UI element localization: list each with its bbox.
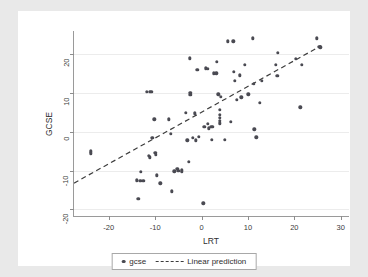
legend-item-linear-prediction: Linear prediction bbox=[155, 257, 246, 266]
x-tick-label: -10 bbox=[150, 223, 161, 232]
y-tick-mark bbox=[70, 171, 74, 172]
x-tick-mark bbox=[341, 216, 342, 220]
x-tick-mark bbox=[109, 216, 110, 220]
x-tick-mark bbox=[294, 216, 295, 220]
legend-item-gcse: gcse bbox=[122, 257, 147, 266]
x-tick-label: 10 bbox=[244, 223, 252, 232]
plot-inner bbox=[74, 31, 349, 216]
y-tick-label: -10 bbox=[62, 175, 71, 186]
x-tick-mark bbox=[202, 216, 203, 220]
chart-screenshot: GCSE -20-1001020 -20-100102030 LRT gcse … bbox=[0, 0, 368, 277]
plot-area: -20-1001020 -20-100102030 bbox=[73, 31, 349, 217]
x-axis-title: LRT bbox=[73, 236, 349, 246]
chart-legend: gcse Linear prediction bbox=[112, 253, 257, 270]
x-tick-label: 0 bbox=[199, 223, 203, 232]
y-tick-label: -20 bbox=[62, 214, 71, 225]
y-tick-mark bbox=[70, 209, 74, 210]
y-tick-label: 0 bbox=[62, 136, 71, 140]
chart-card: GCSE -20-1001020 -20-100102030 LRT gcse … bbox=[18, 11, 350, 266]
legend-dashed-line-icon bbox=[155, 261, 183, 262]
linear-prediction-line bbox=[74, 31, 349, 216]
x-tick-mark bbox=[248, 216, 249, 220]
legend-label-linear-prediction: Linear prediction bbox=[187, 257, 246, 266]
x-tick-label: -20 bbox=[103, 223, 114, 232]
x-tick-mark bbox=[155, 216, 156, 220]
y-tick-label: 10 bbox=[62, 98, 71, 106]
x-tick-label: 20 bbox=[290, 223, 298, 232]
x-tick-label: 30 bbox=[337, 223, 345, 232]
y-tick-label: 20 bbox=[62, 59, 71, 67]
legend-dot-icon bbox=[122, 260, 126, 264]
y-axis-title: GCSE bbox=[44, 31, 54, 217]
y-tick-mark bbox=[70, 93, 74, 94]
legend-label-gcse: gcse bbox=[129, 257, 146, 266]
y-tick-mark bbox=[70, 54, 74, 55]
y-axis-title-label: GCSE bbox=[44, 112, 54, 136]
y-tick-mark bbox=[70, 132, 74, 133]
x-axis-title-label: LRT bbox=[203, 236, 219, 246]
